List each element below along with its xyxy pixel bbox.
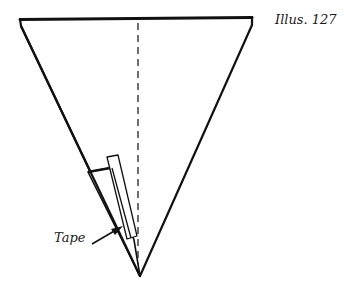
- right-edge: [140, 17, 252, 276]
- figure-caption: Illus. 127: [275, 12, 337, 27]
- tape-arrow: [92, 226, 123, 244]
- top-rim: [20, 18, 252, 20]
- cone-diagram: [0, 0, 352, 291]
- tape-label: Tape: [54, 230, 85, 245]
- arrow-shaft: [92, 230, 116, 244]
